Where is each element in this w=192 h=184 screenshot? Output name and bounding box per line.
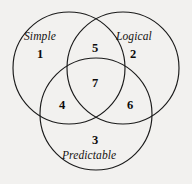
- set-label-logical: Logical: [116, 31, 152, 43]
- circle-simple: [13, 12, 125, 124]
- region-value-simple-logical: 5: [92, 42, 98, 55]
- region-value-logical-predictable: 6: [127, 99, 133, 112]
- venn-diagram: Simple Logical Predictable 1 2 3 4 5 6 7: [0, 0, 192, 184]
- region-value-simple-predictable: 4: [59, 99, 65, 112]
- region-value-simple-only: 1: [37, 48, 43, 61]
- set-label-predictable: Predictable: [62, 150, 116, 162]
- region-value-predictable-only: 3: [92, 134, 98, 147]
- region-value-logical-only: 2: [130, 48, 136, 61]
- circle-logical: [67, 12, 179, 124]
- set-label-simple: Simple: [24, 31, 56, 43]
- region-value-all-three: 7: [92, 77, 98, 90]
